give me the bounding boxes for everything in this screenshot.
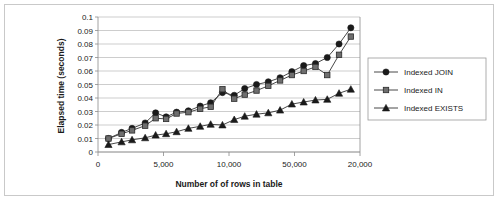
data-point-marker [336,52,341,57]
data-point-marker [119,131,124,136]
x-tick-label: 20,000 [348,160,373,169]
y-axis-tick-labels: 00.010.020.030.040.050.060.070.080.090.1 [77,13,98,157]
data-point-marker [208,104,213,109]
data-point-marker [324,54,330,60]
data-point-marker [186,109,191,114]
data-point-marker [289,72,294,77]
y-axis-title: Elapsed time (seconds) [56,38,66,133]
legend-item-label: Indexed IN [404,86,443,95]
y-tick-label: 0.08 [77,40,93,49]
data-point-marker [383,87,388,92]
data-point-marker [129,128,134,133]
x-axis-title: Number of of rows in table [175,179,282,189]
data-point-marker [336,41,342,47]
data-point-marker [254,88,259,93]
legend-item-label: Indexed EXISTS [404,104,463,113]
y-tick-label: 0.09 [77,27,93,36]
y-tick-label: 0.04 [77,94,93,103]
data-point-marker [301,63,307,69]
data-point-marker [277,78,282,83]
y-tick-label: 0.07 [77,54,93,63]
x-tick-label: 5,000 [153,160,174,169]
data-point-marker [253,81,259,87]
x-tick-label: 50,000 [282,160,307,169]
data-point-marker [142,123,147,128]
y-tick-label: 0.02 [77,121,93,130]
y-tick-label: 0.03 [77,108,93,117]
data-point-marker [348,25,354,31]
data-point-marker [242,85,248,91]
data-point-marker [232,96,237,101]
x-tick-label: 10,000 [217,160,242,169]
data-point-marker [163,116,168,121]
x-tick-label: 0 [96,160,101,169]
data-point-marker [383,69,389,75]
y-tick-label: 0.06 [77,67,93,76]
x-axis-tick-labels: 05,00010,00050,00020,000 [96,152,373,169]
data-point-marker [348,34,353,39]
data-point-marker [301,68,306,73]
chart-legend: Indexed JOINIndexed INIndexed EXISTS [368,58,486,120]
y-tick-label: 0.01 [77,135,93,144]
data-point-marker [153,116,158,121]
figure-frame: 00.010.020.030.040.050.060.070.080.090.1… [0,0,498,200]
y-tick-label: 0 [89,148,94,157]
y-tick-label: 0.05 [77,81,93,90]
data-point-marker [313,64,318,69]
line-chart: 00.010.020.030.040.050.060.070.080.090.1… [0,0,498,200]
data-point-marker [242,92,247,97]
data-point-marker [220,87,225,92]
data-point-marker [153,110,159,116]
data-point-marker [197,106,202,111]
data-point-marker [325,72,330,77]
y-tick-label: 0.1 [82,13,94,22]
legend-item-label: Indexed JOIN [404,68,453,77]
chart-canvas: 00.010.020.030.040.050.060.070.080.090.1… [0,0,498,200]
data-point-marker [266,83,271,88]
data-point-marker [174,111,179,116]
